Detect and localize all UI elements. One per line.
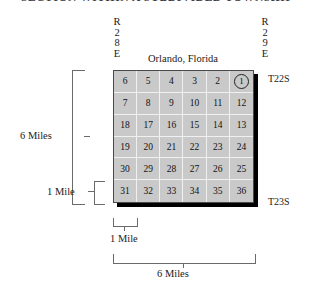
section-cell: 21 [160,137,183,159]
section-cell: 3 [183,71,206,93]
range-label-right: R 2 9 E [258,17,272,59]
section-cell: 7 [114,93,137,115]
section-cell: 2 [207,71,230,93]
section-number: 34 [190,186,200,196]
section-number: 13 [237,120,247,130]
section-number: 29 [143,164,153,174]
section-number: 3 [192,76,197,86]
township-grid: 6 5 4 3 2 1 7 8 9 10 11 12 18 17 16 15 1… [113,70,254,203]
section-number: 23 [213,142,223,152]
section-cell: 17 [137,115,160,137]
section-number: 11 [213,98,222,108]
section-cell: 26 [207,158,230,180]
section-number: 28 [167,164,177,174]
section-cell: 12 [230,93,253,115]
bracket-tick-six-miles-vertical [84,136,90,137]
section-cell: 29 [137,158,160,180]
township-section-diagram: SECTION WITHIN A SUBDIVIDED TOWNSHIP R 2… [0,0,314,289]
section-number: 18 [120,120,130,130]
section-number: 17 [143,120,153,130]
section-number: 31 [120,186,130,196]
section-number: 19 [120,142,130,152]
section-cell: 4 [160,71,183,93]
measurement-label-six-miles-vertical: 6 Miles [20,130,52,141]
range-right-line-4: E [258,49,272,60]
section-cell: 32 [137,180,160,202]
measurement-label-one-mile-vertical: 1 Mile [47,186,75,197]
section-cell: 25 [230,158,253,180]
section-number: 10 [190,98,200,108]
range-right-line-1: R [258,17,272,28]
figure-title: SECTION WITHIN A SUBDIVIDED TOWNSHIP [0,0,314,5]
section-cell: 31 [114,180,137,202]
township-label-bottom: T23S [268,196,290,207]
section-cell: 13 [230,115,253,137]
section-number: 27 [190,164,200,174]
bracket-horizontal-six-miles [113,254,256,264]
section-number: 16 [167,120,177,130]
section-number-circled: 1 [234,74,249,89]
section-cell: 30 [114,158,137,180]
bracket-tick-one-mile-horizontal [124,226,125,231]
section-number: 12 [237,98,247,108]
bracket-vertical-one-mile [94,181,105,205]
bracket-tick-one-mile-vertical [88,191,94,192]
location-caption: Orlando, Florida [113,53,253,64]
section-cell: 6 [114,71,137,93]
section-number: 33 [167,186,177,196]
section-number: 5 [146,76,151,86]
section-cell: 23 [207,137,230,159]
measurement-label-one-mile-horizontal: 1 Mile [110,233,138,244]
section-number: 30 [120,164,130,174]
section-cell: 35 [207,180,230,202]
section-cell: 18 [114,115,137,137]
bracket-horizontal-one-mile [113,218,138,227]
township-label-top: T22S [268,73,290,84]
section-number: 2 [215,76,220,86]
section-cell: 14 [207,115,230,137]
section-cell: 11 [207,93,230,115]
section-cell: 10 [183,93,206,115]
section-cell: 16 [160,115,183,137]
range-left-line-1: R [110,17,124,28]
section-cell-highlighted: 1 [230,71,253,93]
section-cell: 24 [230,137,253,159]
section-number: 7 [123,98,128,108]
section-number: 15 [190,120,200,130]
section-cell: 22 [183,137,206,159]
section-number: 32 [143,186,153,196]
section-number: 24 [237,142,247,152]
section-cell: 20 [137,137,160,159]
section-number: 9 [169,98,174,108]
section-cell: 34 [183,180,206,202]
section-cell: 33 [160,180,183,202]
section-number: 36 [237,186,247,196]
section-cell: 27 [183,158,206,180]
section-number: 22 [190,142,200,152]
section-cell: 8 [137,93,160,115]
section-cell: 28 [160,158,183,180]
section-number: 35 [213,186,223,196]
section-cell: 36 [230,180,253,202]
section-cell: 15 [183,115,206,137]
section-number: 20 [143,142,153,152]
section-number: 8 [146,98,151,108]
section-cell: 5 [137,71,160,93]
section-number: 25 [237,164,247,174]
bracket-vertical-six-miles [72,70,85,205]
section-number: 21 [167,142,177,152]
measurement-label-six-miles-horizontal: 6 Miles [157,268,189,279]
section-number: 14 [213,120,223,130]
section-number: 6 [123,76,128,86]
section-cell: 19 [114,137,137,159]
section-number: 26 [213,164,223,174]
section-number: 4 [169,76,174,86]
section-cell: 9 [160,93,183,115]
